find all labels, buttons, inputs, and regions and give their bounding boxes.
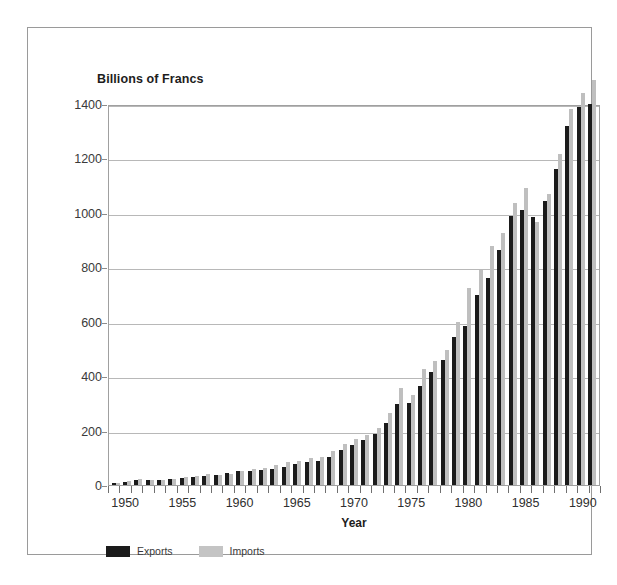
legend-swatch-exports-icon — [106, 546, 130, 557]
bar-imports — [547, 194, 551, 485]
chart-title: Billions of Francs — [97, 72, 204, 86]
x-axis-tickmark — [566, 486, 567, 493]
chart-screenshot: Billions of Francs 140012001000800600400… — [0, 0, 617, 585]
x-axis-tickmark — [463, 486, 464, 493]
bar-imports — [581, 93, 585, 485]
bar-group — [473, 106, 484, 485]
bar-imports — [240, 471, 244, 485]
x-axis-tickmark — [577, 486, 578, 493]
bar-imports — [274, 465, 278, 485]
x-axis-tickmark — [600, 486, 601, 493]
x-axis-tickmark — [119, 486, 120, 493]
bar-imports — [513, 203, 517, 485]
x-axis-tickmark — [348, 486, 349, 493]
bar-imports — [286, 462, 290, 485]
bar-imports — [116, 483, 120, 485]
bar-group — [462, 106, 473, 485]
bar-group — [405, 106, 416, 485]
bar-imports — [138, 479, 142, 485]
y-axis-tick-label: 800 — [42, 261, 102, 275]
legend-item-exports: Exports — [106, 545, 173, 557]
y-axis-tick-label: 600 — [42, 316, 102, 330]
y-axis-tickmark — [102, 159, 107, 160]
bar-group — [450, 106, 461, 485]
legend-label-exports: Exports — [137, 545, 173, 557]
bar-imports — [354, 439, 358, 485]
bar-imports — [206, 474, 210, 485]
x-axis-tickmarks — [108, 486, 600, 496]
chart-frame: Billions of Francs 140012001000800600400… — [27, 27, 592, 555]
x-axis-tickmark — [440, 486, 441, 493]
bar-imports — [501, 233, 505, 485]
x-axis-tickmark — [474, 486, 475, 493]
bar-imports — [309, 458, 313, 485]
bar-imports — [456, 322, 460, 485]
bar-group — [552, 106, 563, 485]
bar-imports — [592, 80, 596, 485]
bar-group — [439, 106, 450, 485]
x-axis-tickmark — [417, 486, 418, 493]
x-axis-tickmark — [383, 486, 384, 493]
y-axis-ticks: 1400120010008006004002000 — [36, 105, 102, 486]
bar-series-container — [109, 106, 599, 485]
bar-group — [292, 106, 303, 485]
x-axis-tickmark — [211, 486, 212, 493]
bar-group — [303, 106, 314, 485]
bar-imports — [297, 461, 301, 485]
y-axis-tickmark — [102, 377, 107, 378]
x-axis-tickmark — [314, 486, 315, 493]
x-axis-tick-label: 1960 — [226, 496, 254, 510]
bar-imports — [127, 481, 131, 485]
bar-group — [133, 106, 144, 485]
x-axis-tickmark — [486, 486, 487, 493]
bar-imports — [524, 188, 528, 485]
bar-group — [348, 106, 359, 485]
bar-imports — [377, 428, 381, 485]
bar-group — [371, 106, 382, 485]
x-axis-tickmark — [531, 486, 532, 493]
x-axis-tickmark — [554, 486, 555, 493]
bar-imports — [184, 477, 188, 485]
x-axis-tickmark — [280, 486, 281, 493]
bar-group — [280, 106, 291, 485]
bar-group — [235, 106, 246, 485]
bar-imports — [331, 451, 335, 485]
bar-group — [201, 106, 212, 485]
x-axis-tickmark — [142, 486, 143, 493]
bar-imports — [150, 480, 154, 485]
y-axis-tick-label: 1200 — [42, 152, 102, 166]
bar-group — [382, 106, 393, 485]
bar-imports — [218, 475, 222, 485]
x-axis-tickmark — [428, 486, 429, 493]
bar-imports — [569, 109, 573, 485]
y-axis-tick-label: 400 — [42, 370, 102, 384]
bar-group — [223, 106, 234, 485]
x-axis-tickmark — [394, 486, 395, 493]
x-axis-tickmark — [268, 486, 269, 493]
x-axis-title: Year — [108, 516, 600, 530]
x-axis-tickmark — [589, 486, 590, 493]
bar-imports — [252, 469, 256, 485]
x-axis-tickmark — [131, 486, 132, 493]
x-axis-tick-label: 1950 — [111, 496, 139, 510]
x-axis-tickmark — [177, 486, 178, 493]
x-axis-tickmark — [371, 486, 372, 493]
x-axis-tick-label: 1975 — [397, 496, 425, 510]
bar-imports — [343, 444, 347, 485]
x-axis-tick-label: 1985 — [512, 496, 540, 510]
y-axis-tickmark — [102, 214, 107, 215]
x-axis-labels: 195019551960196519701975198019851990 — [108, 496, 600, 514]
x-axis-tickmark — [257, 486, 258, 493]
y-axis-tick-label: 200 — [42, 425, 102, 439]
y-axis-tickmark — [102, 105, 107, 106]
x-axis-tickmark — [451, 486, 452, 493]
x-axis-tick-label: 1990 — [569, 496, 597, 510]
x-axis-tickmark — [291, 486, 292, 493]
x-axis-tickmark — [200, 486, 201, 493]
bar-group — [530, 106, 541, 485]
x-axis-tickmark — [222, 486, 223, 493]
bar-group — [212, 106, 223, 485]
x-axis-tickmark — [245, 486, 246, 493]
x-axis-tickmark — [508, 486, 509, 493]
bar-group — [428, 106, 439, 485]
